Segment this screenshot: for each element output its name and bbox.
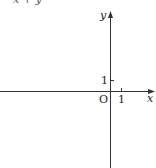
x-axis-label: x <box>147 93 153 104</box>
origin-label: O <box>99 94 108 105</box>
y-axis-arrow-icon <box>108 11 113 18</box>
y-axis-label: y <box>100 10 106 21</box>
x-tick-label: 1 <box>118 94 125 105</box>
coordinate-axes <box>0 0 156 168</box>
y-tick-label: 1 <box>101 75 108 86</box>
